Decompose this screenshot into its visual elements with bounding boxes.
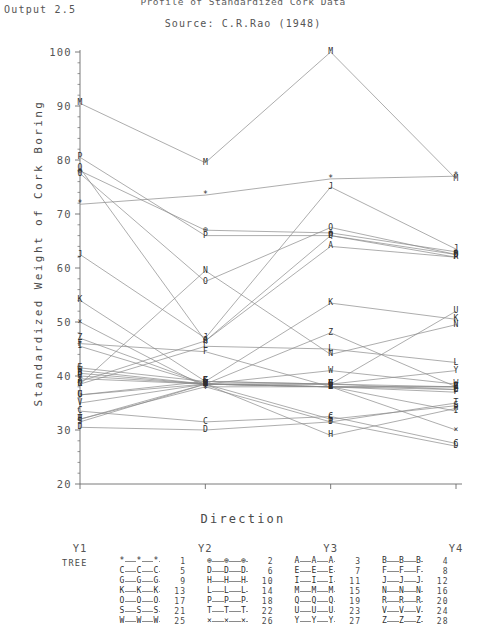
legend-item-10: HHH10 xyxy=(206,576,294,586)
y-tick-label-80: 80 xyxy=(38,154,72,166)
marker-tree-1-y2: * xyxy=(200,191,210,199)
marker-tree-19-y1: Q xyxy=(75,164,85,172)
legend-item-14: LLL14 xyxy=(206,586,294,596)
legend-number-22: 22 xyxy=(252,607,274,616)
legend-symbol-10: HHH xyxy=(206,576,252,586)
y-tick-label-100: 100 xyxy=(38,46,72,58)
marker-tree-6-y2: D xyxy=(200,426,210,434)
legend-item-24: VVV24 xyxy=(381,606,469,616)
legend-row: OOO17PPP18QQQ19RRR20 xyxy=(118,596,468,606)
legend-row: ***1⊕⊕⊕2AAA3BBB4 xyxy=(118,556,468,566)
marker-tree-28-y2: Z xyxy=(200,380,210,388)
legend-item-18: PPP18 xyxy=(206,596,294,606)
marker-tree-12-y1: J xyxy=(75,251,85,259)
legend-symbol-18: PPP xyxy=(206,596,252,606)
legend-item-21: SSS21 xyxy=(118,606,206,616)
legend-symbol-4: BBB xyxy=(381,556,427,566)
legend-number-2: 2 xyxy=(252,557,274,566)
legend-number-5: 5 xyxy=(164,567,186,576)
legend-row: SSS21TTT22UUU23VVV24 xyxy=(118,606,468,616)
legend-item-6: DDD6 xyxy=(206,566,294,576)
legend-number-7: 7 xyxy=(339,567,361,576)
y-tick-label-60: 60 xyxy=(38,262,72,274)
legend-number-1: 1 xyxy=(164,557,186,566)
x-tick-label-y1: Y1 xyxy=(60,542,100,554)
marker-tree-13-y1: K xyxy=(75,296,85,304)
marker-tree-11-y1: I xyxy=(75,342,85,350)
output-label: Output 2.5 xyxy=(4,4,76,15)
legend-item-25: WWW25 xyxy=(118,616,206,626)
marker-tree-3-y3: A xyxy=(326,242,336,250)
legend-symbol-27: YYY xyxy=(293,616,339,626)
marker-tree-16-y2: N xyxy=(200,267,210,275)
marker-tree-1-y1: * xyxy=(75,200,85,208)
marker-tree-28-y3: Z xyxy=(326,329,336,337)
legend-row: WWW25×××26YYY27ZZZ28 xyxy=(118,616,468,626)
legend-number-28: 28 xyxy=(427,617,449,626)
legend-symbol-3: AAA xyxy=(293,556,339,566)
legend-symbol-1: *** xyxy=(118,556,164,566)
legend-number-15: 15 xyxy=(339,587,361,596)
legend-item-28: ZZZ28 xyxy=(381,616,469,626)
legend-grid: ***1⊕⊕⊕2AAA3BBB4CCC5DDD6EEE7FFF8GGG9HHH1… xyxy=(118,556,468,626)
marker-tree-22-y1: T xyxy=(75,415,85,423)
legend-symbol-28: ZZZ xyxy=(381,616,427,626)
legend-row: KKK13LLL14MMM15NNN16 xyxy=(118,586,468,596)
marker-tree-15-y3: M xyxy=(326,48,336,56)
y-axis-title: Standardized Weight of Cork Boring xyxy=(32,107,45,407)
legend-item-17: OOO17 xyxy=(118,596,206,606)
marker-tree-15-y1: M xyxy=(75,99,85,107)
legend-symbol-8: FFF xyxy=(381,566,427,576)
y-tick-label-50: 50 xyxy=(38,316,72,328)
legend-symbol-23: UUU xyxy=(293,606,339,616)
x-tick-label-y3: Y3 xyxy=(311,542,351,554)
legend-symbol-26: ××× xyxy=(206,616,252,626)
legend-symbol-19: QQQ xyxy=(293,596,339,606)
legend-symbol-12: JJJ xyxy=(381,576,427,586)
legend-symbol-6: DDD xyxy=(206,566,252,576)
legend-item-23: UUU23 xyxy=(293,606,381,616)
marker-tree-24-y1: V xyxy=(75,399,85,407)
y-tick-label-70: 70 xyxy=(38,208,72,220)
legend-number-9: 9 xyxy=(164,577,186,586)
legend-item-20: RRR20 xyxy=(381,596,469,606)
marker-tree-25-y3: W xyxy=(326,367,336,375)
marker-tree-17-y2: O xyxy=(200,278,210,286)
marker-tree-19-y2: Q xyxy=(200,337,210,345)
legend-item-16: NNN16 xyxy=(381,586,469,596)
legend-number-4: 4 xyxy=(427,557,449,566)
legend-item-26: ×××26 xyxy=(206,616,294,626)
legend-row: CCC5DDD6EEE7FFF8 xyxy=(118,566,468,576)
y-tick-label-40: 40 xyxy=(38,370,72,382)
marker-tree-15-y4: M xyxy=(451,175,461,183)
legend-number-25: 25 xyxy=(164,617,186,626)
legend-row: GGG9HHH10III11JJJ12 xyxy=(118,576,468,586)
legend-symbol-24: VVV xyxy=(381,606,427,616)
legend-symbol-2: ⊕⊕⊕ xyxy=(206,556,252,566)
marker-tree-10-y3: H xyxy=(326,431,336,439)
legend-number-17: 17 xyxy=(164,597,186,606)
y-tick-label-30: 30 xyxy=(38,424,72,436)
legend-item-22: TTT22 xyxy=(206,606,294,616)
legend-item-12: JJJ12 xyxy=(381,576,469,586)
legend-item-2: ⊕⊕⊕2 xyxy=(206,556,294,566)
legend-symbol-14: LLL xyxy=(206,586,252,596)
legend-number-12: 12 xyxy=(427,577,449,586)
marker-tree-6-y4: D xyxy=(451,442,461,450)
marker-tree-15-y2: M xyxy=(200,159,210,167)
legend-number-21: 21 xyxy=(164,607,186,616)
legend-title: TREE xyxy=(62,558,88,568)
marker-tree-18-y2: P xyxy=(200,232,210,240)
marker-tree-19-y3: Q xyxy=(326,232,336,240)
legend-item-27: YYY27 xyxy=(293,616,381,626)
y-tick-label-20: 20 xyxy=(38,478,72,490)
legend-number-26: 26 xyxy=(252,617,274,626)
legend-item-9: GGG9 xyxy=(118,576,206,586)
legend-item-15: MMM15 xyxy=(293,586,381,596)
marker-tree-27-y4: Y xyxy=(451,367,461,375)
legend-item-3: AAA3 xyxy=(293,556,381,566)
legend-symbol-5: CCC xyxy=(118,566,164,576)
legend-number-6: 6 xyxy=(252,567,274,576)
legend-symbol-22: TTT xyxy=(206,606,252,616)
legend-symbol-17: OOO xyxy=(118,596,164,606)
